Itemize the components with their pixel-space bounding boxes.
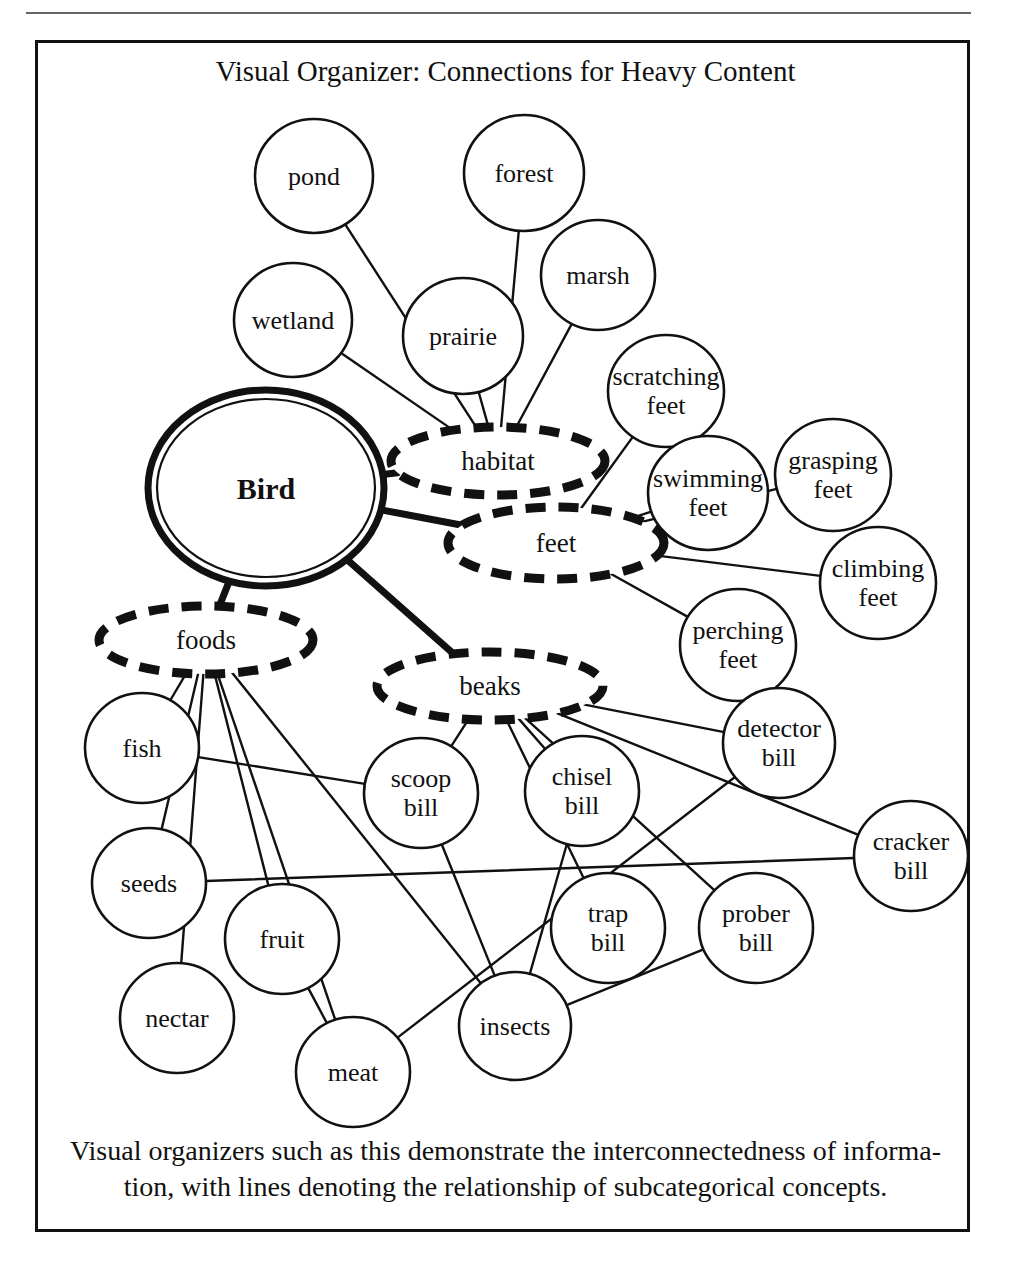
node-seeds[interactable] (92, 828, 206, 938)
edge-feet-to-climbing-feet (657, 556, 820, 576)
node-perching-feet[interactable] (680, 589, 796, 701)
node-bird-outer-ring[interactable] (148, 390, 384, 586)
node-foods[interactable] (99, 606, 313, 674)
edge-fruit-to-meat (308, 988, 327, 1023)
figure-caption: Visual organizers such as this demonstra… (66, 1133, 945, 1205)
node-fish[interactable] (85, 693, 199, 803)
node-grasping-feet[interactable] (775, 419, 891, 531)
node-forest[interactable] (464, 115, 584, 231)
edge-beaks-to-detector-bill (585, 705, 725, 733)
node-nectar[interactable] (120, 963, 234, 1073)
organizer-frame: Visual Organizer: Connections for Heavy … (35, 40, 970, 1232)
edge-habitat-to-prairie (479, 392, 489, 427)
edge-foods-to-fruit (215, 674, 269, 886)
caption-line-2: tion, with lines denoting the relationsh… (66, 1169, 945, 1205)
edge-bird-to-feet (381, 510, 462, 525)
edge-bird-to-beaks (347, 559, 454, 653)
node-meat[interactable] (296, 1017, 410, 1127)
node-trap-bill[interactable] (551, 873, 665, 983)
node-insects[interactable] (459, 972, 571, 1080)
node-prober-bill[interactable] (699, 873, 813, 983)
node-prairie[interactable] (403, 278, 523, 394)
scanned-page: Visual Organizer: Connections for Heavy … (0, 0, 1016, 1267)
node-habitat[interactable] (391, 427, 605, 495)
node-wetland[interactable] (234, 263, 352, 377)
caption-line-1: Visual organizers such as this demonstra… (70, 1135, 941, 1166)
page-top-rule (26, 12, 971, 14)
node-chisel-bill[interactable] (525, 736, 639, 846)
node-detector-bill[interactable] (723, 688, 835, 798)
node-marsh[interactable] (541, 220, 655, 330)
edge-insects-to-scoop-bill (442, 844, 495, 975)
diagram-canvas (38, 43, 973, 1235)
edge-habitat-to-marsh (516, 324, 572, 428)
node-pond[interactable] (255, 119, 373, 233)
node-swimming-feet[interactable] (648, 436, 768, 550)
edge-feet-to-perching-feet (611, 574, 688, 617)
node-feet[interactable] (448, 507, 664, 579)
edge-fish-to-scoop-bill (198, 757, 365, 784)
node-beaks[interactable] (377, 652, 603, 720)
node-fruit[interactable] (225, 884, 339, 994)
node-climbing-feet[interactable] (820, 527, 936, 639)
node-scratching-feet[interactable] (608, 335, 724, 447)
node-layer (85, 115, 968, 1127)
page-ghost-text (26, 0, 971, 10)
node-scoop-bill[interactable] (364, 738, 478, 848)
node-cracker-bill[interactable] (854, 801, 968, 911)
